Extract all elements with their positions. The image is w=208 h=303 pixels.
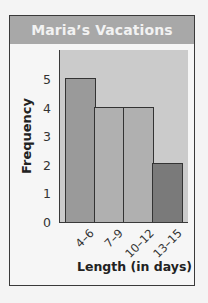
bar-13-15 bbox=[152, 163, 183, 222]
y-tick-0: 0 bbox=[40, 215, 54, 230]
x-axis-label: Length (in days) bbox=[77, 259, 192, 274]
y-tick-4: 4 bbox=[40, 101, 54, 116]
y-tick-1: 1 bbox=[40, 186, 54, 201]
y-tick-3: 3 bbox=[40, 129, 54, 144]
bar-4-6 bbox=[65, 78, 96, 222]
chart-title: Maria’s Vacations bbox=[10, 16, 194, 44]
bar-7-9 bbox=[94, 107, 125, 222]
y-tick-5: 5 bbox=[40, 72, 54, 87]
y-axis-label: Frequency bbox=[19, 98, 34, 174]
plot-area bbox=[59, 50, 188, 223]
y-tick-2: 2 bbox=[40, 158, 54, 173]
bar-10-12 bbox=[123, 107, 154, 222]
